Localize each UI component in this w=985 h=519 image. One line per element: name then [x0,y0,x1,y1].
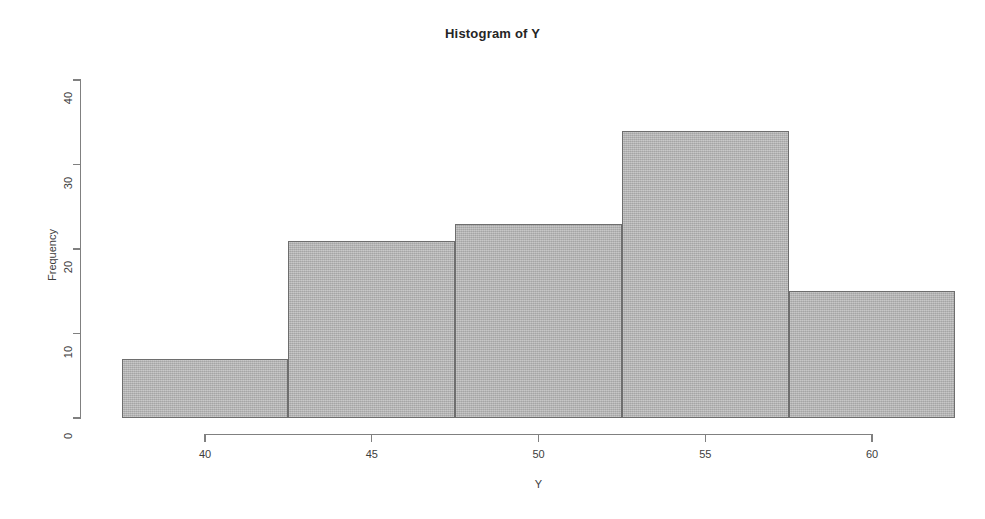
histogram-bar [122,359,289,418]
histogram-bars [0,0,985,519]
histogram-bar [288,241,455,418]
histogram-bar [455,224,622,418]
histogram-bar [622,131,789,418]
histogram-plot: Histogram of Y 010203040 Frequency 40455… [0,0,985,519]
histogram-bar [789,291,956,418]
